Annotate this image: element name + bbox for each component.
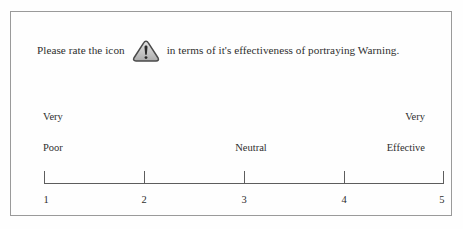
prompt-tail-text: in terms of it's effectiveness of portra… bbox=[167, 45, 400, 56]
anchor-right-line2: Effective bbox=[387, 143, 425, 154]
rating-survey-page: Please rate the icon in terms of i bbox=[0, 0, 463, 229]
scale-number-2[interactable]: 2 bbox=[141, 195, 146, 206]
scale-tick-4[interactable] bbox=[344, 171, 345, 184]
scale-number-3[interactable]: 3 bbox=[241, 195, 246, 206]
scale-number-5[interactable]: 5 bbox=[439, 195, 444, 206]
scale-tick-1[interactable] bbox=[44, 171, 45, 184]
survey-card-frame: Please rate the icon in terms of i bbox=[10, 11, 452, 216]
prompt-lead-text: Please rate the icon bbox=[37, 45, 125, 56]
survey-prompt: Please rate the icon in terms of i bbox=[37, 39, 437, 63]
scale-tick-5[interactable] bbox=[443, 171, 444, 184]
scale-number-4[interactable]: 4 bbox=[341, 195, 346, 206]
anchor-right-line1: Very bbox=[405, 112, 425, 123]
anchor-left-line1: Very bbox=[43, 112, 63, 123]
scale-tick-2[interactable] bbox=[144, 171, 145, 184]
anchor-middle: Neutral bbox=[235, 143, 267, 154]
likert-scale-axis[interactable] bbox=[44, 170, 444, 184]
warning-triangle-icon bbox=[132, 39, 160, 63]
scale-number-labels: 12345 bbox=[44, 195, 444, 209]
scale-number-1[interactable]: 1 bbox=[43, 195, 48, 206]
scale-tick-3[interactable] bbox=[244, 171, 245, 184]
anchor-left-line2: Poor bbox=[43, 143, 63, 154]
